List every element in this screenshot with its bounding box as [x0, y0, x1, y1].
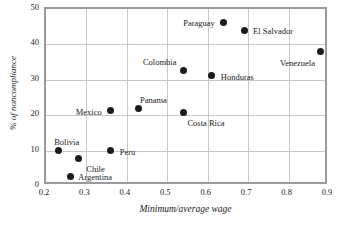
x-tick-label: 0.3 — [72, 188, 96, 197]
data-point-label: Argentina — [78, 173, 112, 182]
y-tick-label: 30 — [20, 74, 39, 83]
x-tick-label: 0.2 — [32, 188, 56, 197]
gridline-vertical — [248, 9, 249, 182]
gridline-vertical — [86, 9, 87, 182]
data-point — [208, 72, 215, 79]
data-point-label: Costa Rica — [187, 119, 224, 128]
gridline-horizontal — [46, 44, 325, 45]
y-axis-title: % of noncompliance — [8, 33, 18, 153]
x-tick-label: 0.9 — [315, 188, 339, 197]
y-tick-label: 10 — [20, 145, 39, 154]
data-point-label: Panama — [140, 96, 167, 105]
data-point-label: Venezuela — [280, 59, 315, 68]
data-point — [241, 27, 248, 34]
data-point-label: Colombia — [143, 58, 177, 67]
data-point-label: El Salvador — [253, 27, 293, 36]
y-tick-label: 0 — [20, 180, 39, 189]
x-tick-label: 0.4 — [113, 188, 137, 197]
data-point — [180, 109, 187, 116]
gridline-vertical — [167, 9, 168, 182]
data-point-label: Paraguay — [183, 19, 215, 28]
data-point — [317, 48, 324, 55]
data-point — [107, 147, 114, 154]
data-point — [220, 19, 227, 26]
gridline-horizontal — [46, 151, 325, 152]
gridline-vertical — [208, 9, 209, 182]
data-point — [180, 67, 187, 74]
data-point — [135, 105, 142, 112]
y-tick-label: 40 — [20, 38, 39, 47]
y-tick-label: 20 — [20, 109, 39, 118]
data-point-label: Chile — [86, 165, 104, 174]
plot-area: BoliviaArgentinaChileMexicoPeruPanamaCos… — [46, 9, 325, 182]
plot-frame: BoliviaArgentinaChileMexicoPeruPanamaCos… — [44, 7, 327, 184]
gridline-horizontal — [46, 80, 325, 81]
data-point — [67, 173, 74, 180]
chart-page: BoliviaArgentinaChileMexicoPeruPanamaCos… — [0, 0, 340, 226]
data-point — [55, 147, 62, 154]
data-point — [75, 155, 82, 162]
data-point-label: Bolivia — [54, 138, 79, 147]
data-point — [107, 107, 114, 114]
x-tick-label: 0.7 — [234, 188, 258, 197]
x-axis-title: Minimum/average wage — [44, 204, 327, 214]
x-tick-label: 0.8 — [275, 188, 299, 197]
data-point-label: Peru — [120, 148, 136, 157]
y-tick-label: 50 — [20, 3, 39, 12]
x-tick-label: 0.6 — [194, 188, 218, 197]
data-point-label: Mexico — [76, 108, 102, 117]
data-point-label: Honduras — [221, 73, 254, 82]
x-tick-label: 0.5 — [153, 188, 177, 197]
